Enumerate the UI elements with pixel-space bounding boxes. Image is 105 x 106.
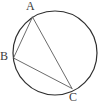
figure-canvas [0,0,105,106]
geometry-figure: A B C [0,0,105,106]
circumscribed-circle [13,11,97,95]
vertex-label-a: A [26,0,35,12]
vertex-label-c: C [69,91,77,103]
vertex-label-b: B [0,50,8,62]
